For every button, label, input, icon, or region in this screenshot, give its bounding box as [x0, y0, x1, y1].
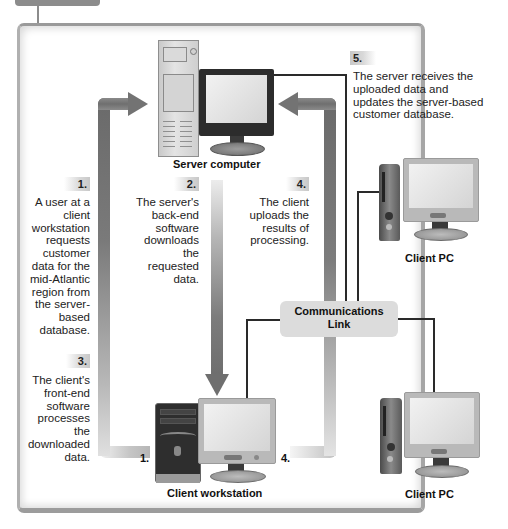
step-1-text: A user at a client workstation requests …: [24, 196, 90, 337]
arrow1-endpoint-marker: 1.: [140, 452, 149, 464]
workstation-monitor-base: [210, 470, 266, 483]
step-3-text: The client's front-end software processe…: [24, 374, 90, 464]
workstation-monitor-icon: [198, 398, 276, 464]
step-2-number: 2.: [174, 177, 199, 191]
client-pc2-monitor-icon: [404, 392, 480, 458]
arrow4-endpoint-marker: 4.: [281, 452, 290, 464]
client-pc2-monitor-base: [415, 465, 469, 478]
comm-link-line1: Communications: [280, 305, 398, 318]
arrow2-head-icon: [205, 374, 229, 396]
wire-workstation-vertical: [246, 319, 248, 401]
step-2-text: The server's back-end software downloads…: [130, 196, 199, 286]
arrow1-head-icon: [128, 92, 148, 116]
server-label: Server computer: [173, 158, 260, 170]
arrow1-vertical-segment: [98, 98, 110, 456]
server-monitor-icon: [199, 69, 274, 136]
arrow4-head-icon: [278, 92, 298, 116]
wire-pc1-vertical: [357, 191, 359, 302]
workstation-label: Client workstation: [167, 487, 262, 499]
client-pc1-tower-icon: [379, 164, 400, 241]
client-pc2-label: Client PC: [405, 488, 454, 500]
step-1-number: 1.: [64, 177, 90, 191]
client-pc1-monitor-icon: [403, 158, 479, 222]
step-5-number: 5.: [350, 51, 376, 65]
communications-link: Communications Link: [280, 301, 398, 337]
wire-server-horizontal: [272, 74, 347, 76]
client-pc1-monitor-base: [414, 228, 468, 241]
client-pc1-label: Client PC: [405, 252, 454, 264]
figure-tab: [15, 0, 100, 6]
arrow4-vertical-segment: [324, 98, 336, 456]
step-4-text: The client uploads the results of proces…: [248, 196, 309, 247]
arrow2-shaft: [211, 180, 223, 376]
workstation-tower-icon: [155, 403, 201, 483]
comm-link-line2: Link: [280, 318, 398, 331]
client-pc2-tower-icon: [380, 398, 402, 474]
wire-pc2-horizontal: [396, 318, 434, 320]
step-5-text: The server receives the uploaded data an…: [353, 70, 493, 121]
arrow4-top-segment: [296, 98, 336, 110]
figure-tab-connector: [37, 6, 39, 24]
server-monitor-base: [210, 142, 265, 156]
arrow1-top-segment: [98, 98, 130, 110]
wire-workstation-horizontal: [246, 319, 282, 321]
wire-server-vertical: [345, 74, 347, 302]
step-3-number: 3.: [66, 354, 90, 368]
step-4-number: 4.: [286, 177, 309, 191]
wire-pc1-horizontal: [357, 191, 381, 193]
server-tower-icon: [158, 40, 199, 157]
